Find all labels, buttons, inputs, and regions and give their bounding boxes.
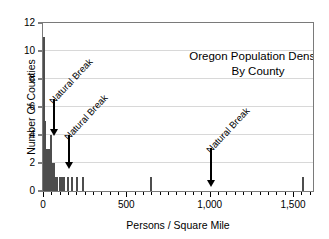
y-tick-label: 4 bbox=[29, 130, 35, 140]
x-tick-mark-major bbox=[43, 192, 44, 197]
x-tick-mark-major bbox=[210, 192, 211, 197]
y-tick-label: 12 bbox=[24, 18, 35, 28]
x-tick-mark-minor bbox=[251, 192, 252, 195]
x-tick-mark-minor bbox=[60, 192, 61, 195]
y-tick-label: 8 bbox=[29, 74, 35, 84]
x-tick-mark-minor bbox=[51, 192, 52, 195]
arrow-head bbox=[207, 180, 215, 187]
x-tick-mark-minor bbox=[218, 192, 219, 195]
natural-break-label: Natural Break bbox=[204, 105, 252, 155]
x-tick-mark-minor bbox=[243, 192, 244, 195]
x-tick-mark-minor bbox=[85, 192, 86, 195]
x-tick-mark-minor bbox=[268, 192, 269, 195]
x-tick-mark-minor bbox=[226, 192, 227, 195]
x-axis-label: Persons / Square Mile bbox=[42, 219, 314, 231]
bar bbox=[67, 177, 69, 191]
chart-title-line-1: Oregon Population Density bbox=[163, 49, 314, 64]
x-tick-mark-minor bbox=[276, 192, 277, 195]
x-tick-mark-minor bbox=[101, 192, 102, 195]
x-tick-mark-minor bbox=[143, 192, 144, 195]
x-tick-mark-minor bbox=[285, 192, 286, 195]
gridline bbox=[43, 134, 313, 135]
x-tick-mark-minor bbox=[201, 192, 202, 195]
x-tick-mark-minor bbox=[160, 192, 161, 195]
y-axis-ticks: 024681012 bbox=[0, 22, 42, 192]
x-tick-label: 0 bbox=[40, 199, 46, 210]
x-tick-mark-minor bbox=[151, 192, 152, 195]
x-tick-mark-minor bbox=[110, 192, 111, 195]
bar bbox=[302, 177, 304, 191]
bar bbox=[63, 177, 65, 191]
chart-figure: Number Of Counties 024681012 Natural Bre… bbox=[0, 0, 329, 239]
natural-break-label: Natural Break bbox=[47, 56, 95, 106]
x-tick-label: 500 bbox=[118, 199, 135, 210]
chart-title: Oregon Population Density By County bbox=[163, 49, 314, 79]
y-tick-label: 6 bbox=[29, 102, 35, 112]
x-tick-label: 1,500 bbox=[280, 199, 305, 210]
bar bbox=[71, 177, 73, 191]
x-tick-mark-minor bbox=[176, 192, 177, 195]
gridline bbox=[43, 22, 313, 23]
bar bbox=[150, 177, 152, 191]
gridline bbox=[43, 106, 313, 107]
x-tick-mark-minor bbox=[68, 192, 69, 195]
x-tick-label: 1,000 bbox=[197, 199, 222, 210]
arrow-head bbox=[50, 129, 58, 136]
x-tick-mark-major bbox=[126, 192, 127, 197]
x-tick-mark-major bbox=[293, 192, 294, 197]
x-tick-mark-minor bbox=[76, 192, 77, 195]
x-tick-mark-minor bbox=[310, 192, 311, 195]
x-tick-mark-minor bbox=[135, 192, 136, 195]
bar bbox=[82, 177, 84, 191]
x-tick-mark-minor bbox=[118, 192, 119, 195]
plot-area: Natural BreakNatural BreakNatural Break … bbox=[42, 22, 314, 192]
chart-title-line-2: By County bbox=[163, 64, 314, 79]
x-tick-mark-minor bbox=[168, 192, 169, 195]
gridline bbox=[43, 162, 313, 163]
x-tick-mark-minor bbox=[93, 192, 94, 195]
x-tick-mark-minor bbox=[301, 192, 302, 195]
y-tick-label: 2 bbox=[29, 158, 35, 168]
x-tick-mark-minor bbox=[260, 192, 261, 195]
arrow-head bbox=[65, 162, 73, 169]
bar bbox=[76, 177, 78, 191]
x-tick-mark-minor bbox=[185, 192, 186, 195]
y-tick-label: 10 bbox=[24, 46, 35, 56]
x-tick-mark-minor bbox=[193, 192, 194, 195]
x-tick-mark-minor bbox=[235, 192, 236, 195]
y-tick-label: 0 bbox=[29, 186, 35, 196]
